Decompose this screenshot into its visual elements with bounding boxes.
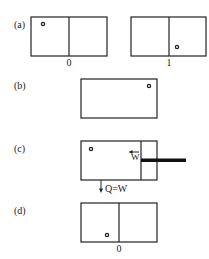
- particle-icon: [147, 84, 150, 87]
- particle-icon: [89, 147, 92, 150]
- caption-state-0: 0: [117, 243, 122, 254]
- particle-icon: [175, 45, 178, 48]
- panel-label-a: (a): [14, 19, 25, 31]
- panel-c: (c) W Q=W: [14, 141, 186, 194]
- piston-rod: [141, 159, 186, 163]
- szilard-engine-diagram: (a) 0 1 (b) (c) W Q=W (d) 0: [0, 0, 209, 259]
- panel-b: (b): [14, 79, 157, 118]
- caption-state-1: 1: [167, 57, 172, 68]
- arrowhead-down-icon: [99, 189, 103, 194]
- panel-d: (d) 0: [14, 203, 157, 254]
- work-label: W: [131, 152, 140, 162]
- panel-label-b: (b): [14, 80, 26, 92]
- caption-state-0: 0: [67, 57, 72, 68]
- box-single-chamber: [81, 79, 157, 118]
- particle-icon: [105, 233, 108, 236]
- panel-label-d: (d): [14, 205, 26, 217]
- particle-icon: [41, 22, 44, 25]
- panel-label-c: (c): [14, 143, 25, 155]
- heat-label: Q=W: [105, 183, 128, 194]
- panel-a: (a) 0 1: [14, 17, 206, 68]
